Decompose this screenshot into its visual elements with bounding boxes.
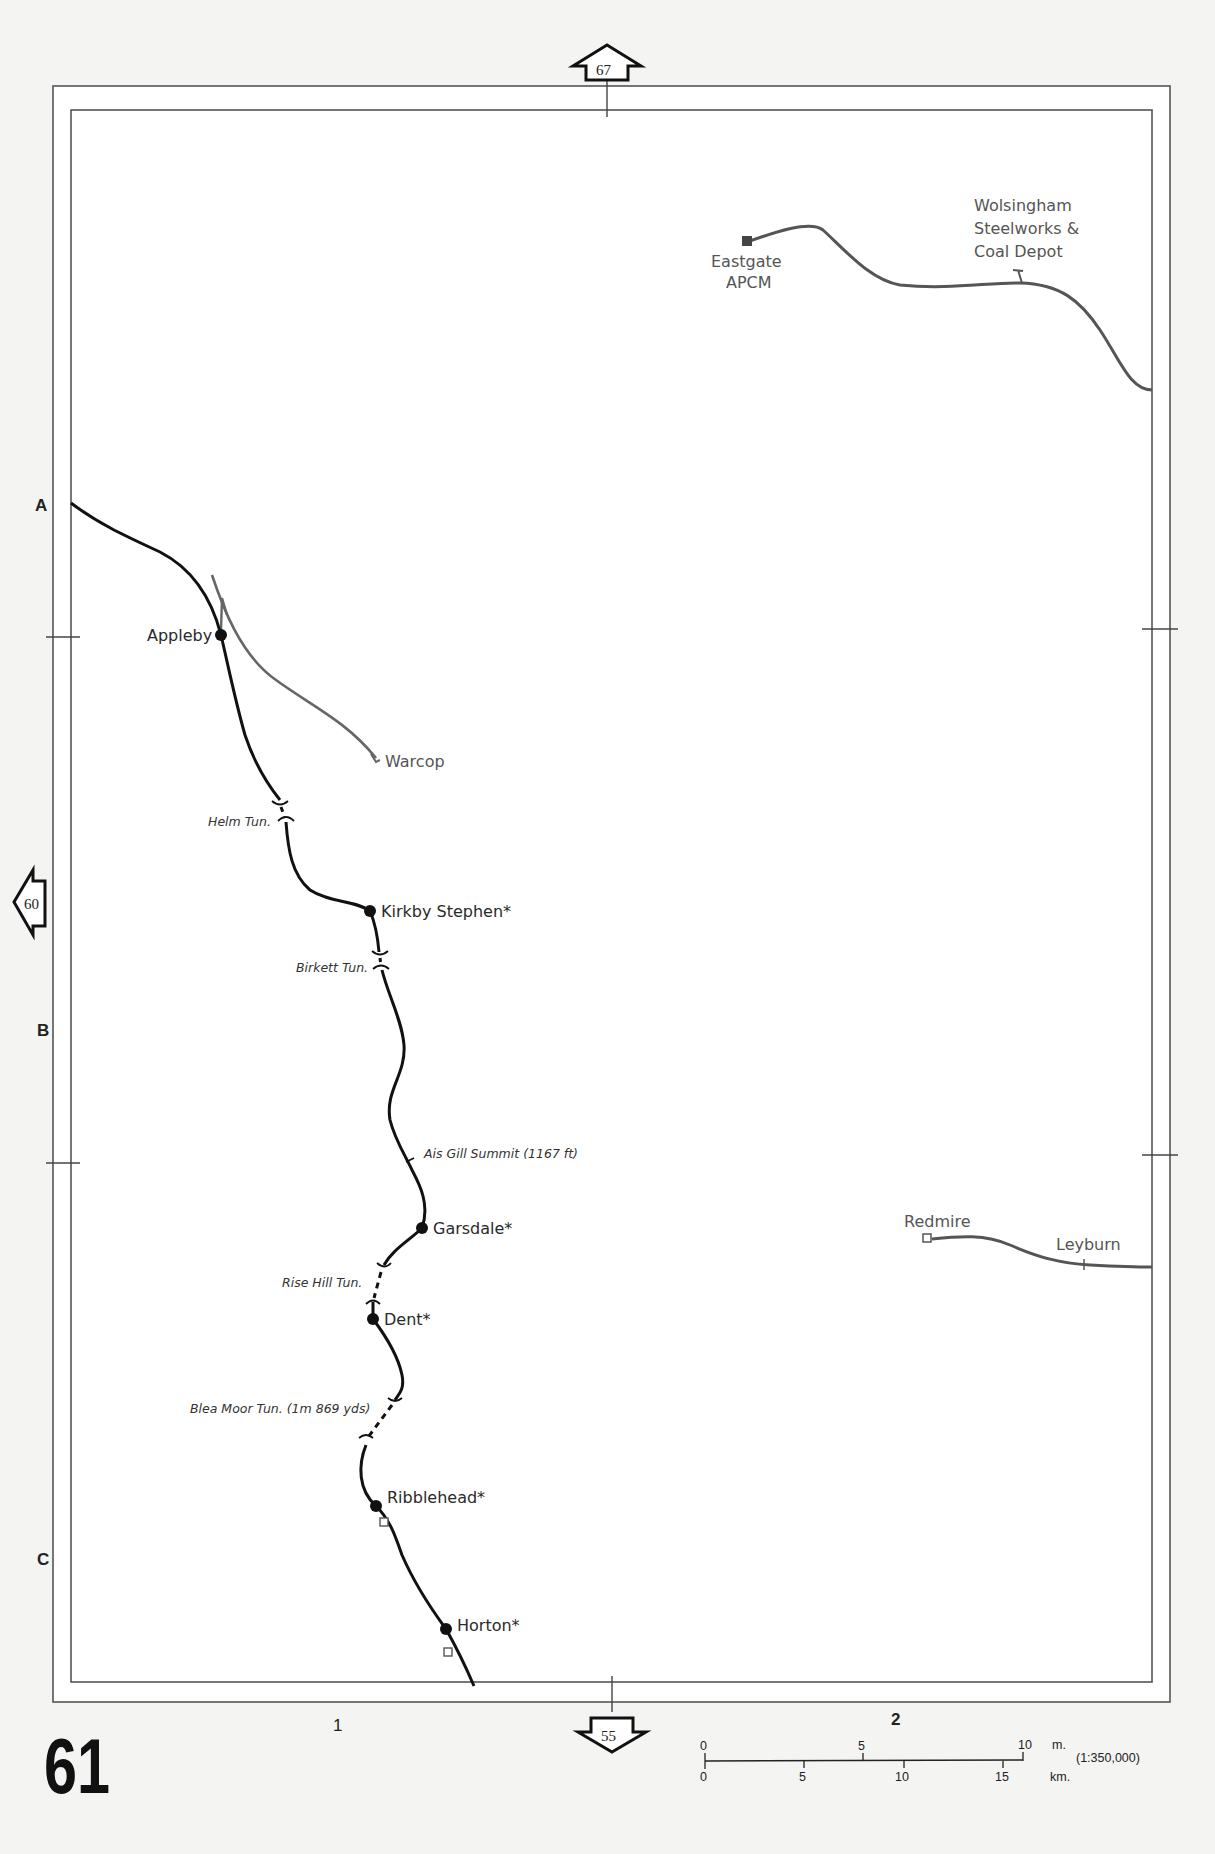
siding-label-wolsingham-1: Wolsingham [974, 196, 1072, 215]
tunnel-label-birkett: Birkett Tun. [296, 960, 368, 975]
scale-km-unit: km. [1050, 1770, 1070, 1784]
station-label-redmire: Redmire [904, 1212, 971, 1231]
scale-km-10: 10 [895, 1770, 909, 1784]
svg-text:55: 55 [601, 1728, 616, 1744]
scale-miles-10: 10 [1018, 1738, 1032, 1752]
svg-text:60: 60 [24, 896, 39, 912]
railway-map: A B C 1 2 67 55 60 Warcop Eastgate APCM … [0, 0, 1215, 1854]
tunnel-label-blea-moor: Blea Moor Tun. (1m 869 yds) [190, 1401, 370, 1416]
station-label-eastgate: Eastgate [711, 252, 782, 271]
tunnel-label-helm: Helm Tun. [208, 814, 271, 829]
station-ribblehead-icon [370, 1500, 382, 1512]
grid-row-b: B [37, 1021, 49, 1040]
grid-col-2: 2 [891, 1710, 900, 1729]
siding-label-wolsingham-2: Steelworks & [974, 219, 1079, 238]
station-dent-icon [367, 1313, 379, 1325]
grid-row-a: A [35, 496, 47, 515]
scale-miles-5: 5 [858, 1739, 865, 1753]
station-label-dent: Dent* [384, 1310, 431, 1329]
svg-text:67: 67 [596, 62, 612, 78]
station-horton-icon [440, 1623, 452, 1635]
grid-row-c: C [37, 1550, 49, 1569]
station-label-kirkby-stephen: Kirkby Stephen* [381, 902, 511, 921]
scale-miles-unit: m. [1052, 1738, 1066, 1752]
redmire-terminal-icon [923, 1234, 931, 1242]
station-label-ribblehead: Ribblehead* [387, 1488, 485, 1507]
grid-col-1: 1 [333, 1716, 342, 1735]
station-label-eastgate-apcm: APCM [726, 273, 772, 292]
station-appleby-icon [215, 629, 227, 641]
station-label-warcop: Warcop [385, 752, 445, 771]
tunnel-label-rise-hill: Rise Hill Tun. [282, 1275, 362, 1290]
eastgate-terminal-icon [742, 236, 752, 246]
station-label-leyburn: Leyburn [1056, 1235, 1121, 1254]
station-label-garsdale: Garsdale* [433, 1219, 512, 1238]
scale-km-0: 0 [700, 1770, 707, 1784]
summit-label-ais-gill: Ais Gill Summit (1167 ft) [423, 1146, 578, 1161]
scale-km-5: 5 [799, 1770, 806, 1784]
station-kirkby-stephen-icon [364, 905, 376, 917]
scale-miles-0: 0 [700, 1739, 707, 1753]
station-garsdale-icon [416, 1222, 428, 1234]
siding-label-wolsingham-3: Coal Depot [974, 242, 1063, 261]
page-number: 61 [44, 1722, 110, 1810]
scale-km-15: 15 [995, 1770, 1009, 1784]
scale-ratio: (1:350,000) [1076, 1751, 1140, 1765]
station-label-horton: Horton* [457, 1616, 520, 1635]
station-label-appleby: Appleby [147, 626, 212, 645]
map-area [53, 86, 1170, 1702]
